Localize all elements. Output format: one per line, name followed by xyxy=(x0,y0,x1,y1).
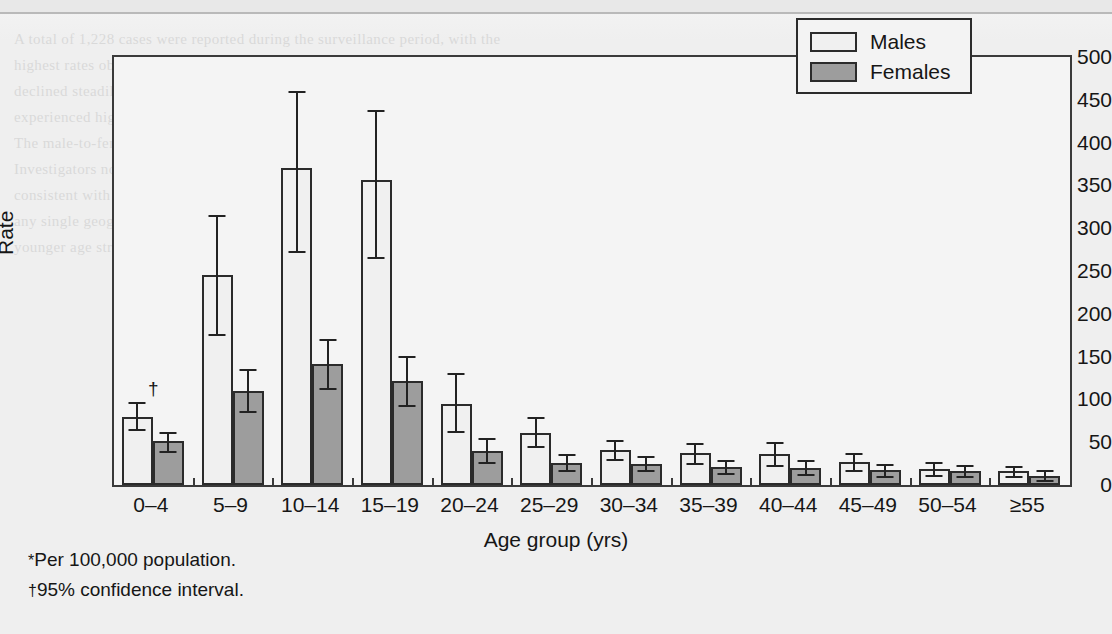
legend-item-females: Females xyxy=(810,57,970,87)
error-bar-stem xyxy=(375,110,377,257)
footnote-text-ci: 95% confidence interval. xyxy=(37,579,244,600)
x-tick-mark xyxy=(511,478,513,487)
error-bar-cap-upper xyxy=(160,432,177,434)
error-bar-cap-lower xyxy=(527,446,544,448)
footnote-ci: †95% confidence interval. xyxy=(28,575,244,605)
error-bar-cap-lower xyxy=(957,476,974,478)
error-bar-cap-upper xyxy=(687,443,704,445)
x-tick-mark xyxy=(193,478,195,487)
bar-chart: Rate 050100150200250300350400450500 † 0–… xyxy=(0,0,1112,634)
error-bar-stem xyxy=(327,339,329,389)
x-tick-mark xyxy=(671,478,673,487)
x-tick-label: 25–29 xyxy=(520,493,578,517)
error-bar-stem xyxy=(694,443,696,463)
error-bar-stem xyxy=(774,442,776,465)
error-bar-cap-upper xyxy=(209,215,226,217)
plot-area: † xyxy=(112,55,1072,487)
error-bar-stem xyxy=(853,453,855,469)
x-tick-mark xyxy=(352,478,354,487)
error-bar-cap-upper xyxy=(1005,466,1022,468)
error-bar-cap-upper xyxy=(846,453,863,455)
error-bar-cap-upper xyxy=(448,373,465,375)
error-bar-cap-upper xyxy=(607,440,624,442)
error-bar-cap-upper xyxy=(368,110,385,112)
x-tick-label: 35–39 xyxy=(679,493,737,517)
error-bar-cap-lower xyxy=(877,476,894,478)
chart-legend: Males Females xyxy=(796,18,972,94)
error-bar-cap-lower xyxy=(638,470,655,472)
error-bar-cap-upper xyxy=(240,369,257,371)
x-tick-label: 50–54 xyxy=(918,493,976,517)
x-tick-label: ≥55 xyxy=(1010,493,1045,517)
legend-item-males: Males xyxy=(810,27,970,57)
footnote-symbol-dagger: † xyxy=(28,582,37,599)
error-bar-cap-upper xyxy=(479,438,496,440)
error-bar-cap-lower xyxy=(718,473,735,475)
error-bar-cap-upper xyxy=(319,339,336,341)
error-bar-stem xyxy=(296,91,298,251)
chart-footnotes: *Per 100,000 population. †95% confidence… xyxy=(28,545,244,605)
error-bar-cap-lower xyxy=(160,451,177,453)
x-tick-label: 20–24 xyxy=(440,493,498,517)
x-tick-label: 30–34 xyxy=(600,493,658,517)
x-tick-label: 5–9 xyxy=(213,493,248,517)
ci-dagger-annotation: † xyxy=(148,378,159,400)
error-bar-stem xyxy=(566,454,568,470)
error-bar-cap-lower xyxy=(479,462,496,464)
error-bar-cap-upper xyxy=(288,91,305,93)
legend-swatch-males xyxy=(810,32,857,52)
error-bar-cap-lower xyxy=(926,475,943,477)
x-tick-label: 15–19 xyxy=(361,493,419,517)
error-bar-cap-upper xyxy=(877,464,894,466)
error-bar-cap-lower xyxy=(399,405,416,407)
error-bar-cap-upper xyxy=(638,456,655,458)
error-bar-cap-upper xyxy=(527,417,544,419)
error-bar-stem xyxy=(645,456,647,471)
x-tick-mark xyxy=(830,478,832,487)
footnote-text-rate: Per 100,000 population. xyxy=(34,549,236,570)
error-bar-cap-upper xyxy=(926,462,943,464)
error-bar-cap-lower xyxy=(846,470,863,472)
error-bar-cap-upper xyxy=(797,460,814,462)
error-bar-stem xyxy=(136,402,138,429)
legend-swatch-females xyxy=(810,62,857,82)
error-bar-stem xyxy=(805,460,807,474)
error-bar-stem xyxy=(216,215,218,334)
error-bar-cap-upper xyxy=(129,402,146,404)
error-bar-cap-upper xyxy=(399,356,416,358)
x-tick-mark xyxy=(910,478,912,487)
error-bar-cap-lower xyxy=(209,334,226,336)
error-bar-cap-upper xyxy=(766,442,783,444)
error-bar-cap-lower xyxy=(240,411,257,413)
error-bar-cap-upper xyxy=(1036,470,1053,472)
x-tick-label: 45–49 xyxy=(839,493,897,517)
error-bar-stem xyxy=(406,356,408,405)
error-bar-cap-lower xyxy=(448,431,465,433)
x-tick-label: 10–14 xyxy=(281,493,339,517)
error-bar-cap-lower xyxy=(1036,480,1053,482)
error-bar-cap-lower xyxy=(319,388,336,390)
error-bar-cap-lower xyxy=(1005,476,1022,478)
x-tick-label: 0–4 xyxy=(133,493,168,517)
error-bar-cap-lower xyxy=(129,429,146,431)
error-bar-cap-upper xyxy=(718,460,735,462)
error-bar-cap-lower xyxy=(368,257,385,259)
error-bar-stem xyxy=(247,369,249,410)
error-bar-stem xyxy=(535,417,537,447)
error-bar-stem xyxy=(486,438,488,462)
error-bar-cap-upper xyxy=(558,454,575,456)
y-axis-title: Rate xyxy=(0,211,18,255)
error-bar-cap-lower xyxy=(687,463,704,465)
error-bar-cap-lower xyxy=(797,474,814,476)
error-bar-cap-lower xyxy=(288,251,305,253)
footnote-rate: *Per 100,000 population. xyxy=(28,545,244,575)
error-bar-stem xyxy=(455,373,457,431)
error-bar-stem xyxy=(167,432,169,451)
error-bar-cap-lower xyxy=(607,459,624,461)
error-bar-cap-lower xyxy=(558,470,575,472)
x-tick-label: 40–44 xyxy=(759,493,817,517)
x-tick-mark xyxy=(750,478,752,487)
x-tick-mark xyxy=(432,478,434,487)
x-tick-mark xyxy=(989,478,991,487)
legend-label-females: Females xyxy=(870,60,951,84)
